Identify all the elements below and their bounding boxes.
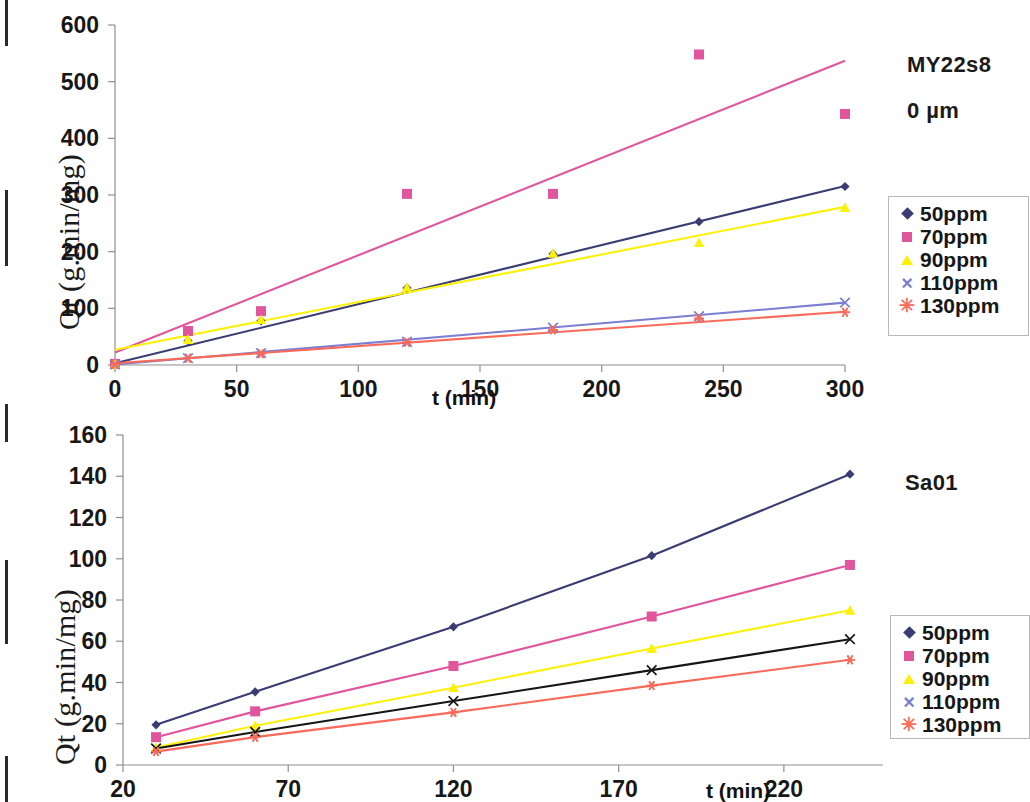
x-tick-label: 0 <box>75 376 155 403</box>
data-point-marker <box>151 720 160 729</box>
plot-area-bottom <box>123 435 883 765</box>
legend-row-130ppm[interactable]: ✳130ppm <box>894 294 1022 317</box>
y-tick-label: 400 <box>33 125 99 152</box>
legend-top: 50ppm70ppm90ppm×110ppm✳130ppm <box>888 196 1029 336</box>
series-line-110ppm <box>156 639 850 748</box>
data-point-marker <box>694 237 704 247</box>
data-point-marker <box>250 733 260 742</box>
marker-glyph <box>901 207 914 220</box>
y-tick-label: 500 <box>33 69 99 96</box>
legend-marker-star-icon: ✳ <box>894 296 920 315</box>
data-point-marker <box>694 49 704 59</box>
legend-marker-x-icon: × <box>894 273 920 293</box>
y-tick-label: 100 <box>41 546 107 573</box>
x-tick-label: 100 <box>318 376 398 403</box>
x-tick-label: 300 <box>805 376 885 403</box>
marker-glyph: ✳ <box>901 715 917 734</box>
y-tick-label: 300 <box>33 182 99 209</box>
legend-label: 130ppm <box>922 713 1001 737</box>
figure-page: Qt (g.min/mg) 0100200300400500600 050100… <box>0 0 1030 802</box>
plot-area-top <box>115 25 845 365</box>
series-line-90ppm <box>156 610 850 747</box>
legend-marker-square-icon <box>894 232 920 242</box>
marker-glyph: × <box>901 273 913 293</box>
data-point-marker <box>402 189 412 199</box>
legend-label: 50ppm <box>922 621 990 645</box>
data-point-marker <box>647 551 656 560</box>
legend-row-90ppm[interactable]: 90ppm <box>894 248 1022 271</box>
data-point-marker <box>548 189 558 199</box>
legend-marker-triangle-icon <box>896 674 922 684</box>
data-point-marker <box>694 217 703 226</box>
chart-sa01: Qt (g.min/mg) 020406080100120140160 2070… <box>0 410 1030 802</box>
annotation-particle-size-top: 0 µm <box>907 98 959 124</box>
legend-label: 110ppm <box>920 271 998 295</box>
data-point-marker <box>845 655 855 664</box>
x-tick-label: 170 <box>579 776 659 802</box>
x-tick-label: 200 <box>562 376 642 403</box>
legend-marker-triangle-icon <box>894 255 920 265</box>
data-point-marker <box>151 732 161 742</box>
data-point-marker <box>250 706 260 716</box>
data-point-marker <box>449 622 458 631</box>
data-point-marker <box>840 182 849 191</box>
legend-row-70ppm[interactable]: 70ppm <box>896 644 1023 667</box>
legend-marker-x-icon: × <box>896 692 922 712</box>
legend-label: 110ppm <box>922 690 1000 714</box>
legend-row-110ppm[interactable]: ×110ppm <box>896 690 1023 713</box>
trendline-70ppm <box>115 61 845 353</box>
y-tick-label: 0 <box>33 352 99 379</box>
legend-label: 50ppm <box>920 202 988 226</box>
annotation-sample-name-top: MY22s8 <box>907 52 991 78</box>
annotation-sample-name-bottom: Sa01 <box>905 470 958 496</box>
y-tick-label: 140 <box>41 463 107 490</box>
marker-glyph: ✳ <box>899 296 915 315</box>
marker-glyph <box>904 651 914 661</box>
y-tick-label: 80 <box>41 587 107 614</box>
x-tick-label: 70 <box>248 776 328 802</box>
trendline-90ppm <box>115 207 845 350</box>
legend-row-50ppm[interactable]: 50ppm <box>896 621 1023 644</box>
legend-row-110ppm[interactable]: ×110ppm <box>894 271 1022 294</box>
x-tick-label: 250 <box>683 376 763 403</box>
data-point-marker <box>448 708 458 717</box>
y-tick-label: 0 <box>41 752 107 779</box>
y-tick-label: 60 <box>41 628 107 655</box>
data-point-marker <box>845 605 855 615</box>
y-tick-label: 20 <box>41 711 107 738</box>
data-point-marker <box>845 560 855 570</box>
legend-row-70ppm[interactable]: 70ppm <box>894 225 1022 248</box>
data-point-marker <box>448 661 458 671</box>
marker-glyph: × <box>903 692 915 712</box>
data-point-marker <box>647 612 657 622</box>
x-axis-title-bottom: t (min) <box>706 779 770 802</box>
legend-marker-diamond-icon <box>896 628 922 637</box>
legend-marker-diamond-icon <box>894 209 920 218</box>
data-point-marker <box>840 308 850 317</box>
marker-glyph <box>901 255 913 265</box>
y-tick-label: 100 <box>33 295 99 322</box>
x-tick-label: 20 <box>83 776 163 802</box>
y-tick-label: 160 <box>41 422 107 449</box>
legend-row-50ppm[interactable]: 50ppm <box>894 202 1022 225</box>
legend-row-130ppm[interactable]: ✳130ppm <box>896 713 1023 736</box>
chart-my22s8: Qt (g.min/mg) 0100200300400500600 050100… <box>0 0 1030 410</box>
legend-row-90ppm[interactable]: 90ppm <box>896 667 1023 690</box>
data-point-marker <box>840 109 850 119</box>
y-tick-label: 40 <box>41 670 107 697</box>
x-tick-label: 120 <box>413 776 493 802</box>
y-tick-label: 600 <box>33 12 99 39</box>
x-tick-label: 50 <box>197 376 277 403</box>
legend-label: 70ppm <box>920 225 988 249</box>
y-tick-label: 200 <box>33 239 99 266</box>
legend-bottom: 50ppm70ppm90ppm×110ppm✳130ppm <box>890 615 1030 739</box>
legend-marker-star-icon: ✳ <box>896 715 922 734</box>
data-point-marker <box>845 470 854 479</box>
series-line-50ppm <box>156 474 850 725</box>
legend-label: 130ppm <box>920 294 999 318</box>
legend-label: 90ppm <box>922 667 990 691</box>
legend-marker-square-icon <box>896 651 922 661</box>
legend-label: 90ppm <box>920 248 988 272</box>
marker-glyph <box>903 626 916 639</box>
y-tick-label: 120 <box>41 505 107 532</box>
